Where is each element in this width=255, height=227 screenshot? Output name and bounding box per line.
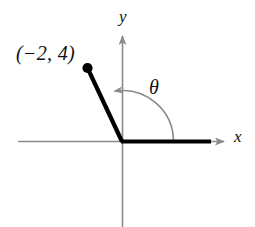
point-coordinates-label: (−2, 4)	[16, 43, 75, 63]
y-axis-label: y	[119, 8, 127, 25]
angle-diagram-figure: (−2, 4) y x θ	[0, 0, 255, 227]
terminal-side-ray	[88, 69, 122, 142]
coordinate-plane-graphic	[0, 0, 255, 227]
plotted-point-marker	[82, 63, 92, 73]
x-axis-label: x	[234, 128, 242, 145]
angle-arc	[115, 91, 174, 141]
theta-angle-label: θ	[149, 77, 159, 97]
